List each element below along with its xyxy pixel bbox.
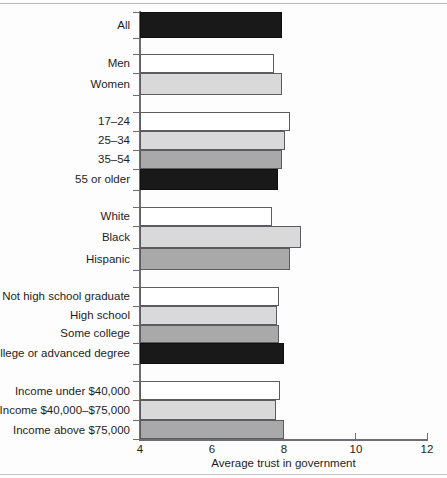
x-tick-10: [355, 433, 356, 440]
x-tick-label-8: 8: [264, 443, 304, 455]
cat-label-income-under-40k: Income under $40,000: [15, 385, 130, 397]
x-tick-label-6: 6: [192, 443, 232, 455]
bar-edu-not-hs: [140, 287, 279, 306]
x-tick-label-10: 10: [336, 443, 376, 455]
y-tick-8: [133, 169, 140, 170]
cat-label-hispanic: Hispanic: [86, 253, 130, 265]
bar-edu-college: [140, 343, 284, 364]
y-tick-19: [133, 381, 140, 382]
x-axis-title: Average trust in government: [139, 457, 428, 469]
cat-label-age-17-24: 17–24: [98, 115, 130, 127]
y-tick-11: [133, 226, 140, 227]
bar-all: [140, 12, 282, 38]
cat-label-age-55-older: 55 or older: [75, 173, 130, 185]
bar-edu-hs: [140, 306, 277, 325]
y-tick-4: [133, 95, 140, 96]
cat-label-edu-hs: High school: [70, 309, 130, 321]
cat-label-income-40-75k: Income $40,000–$75,000: [0, 404, 130, 416]
cat-label-income-above-75k: Income above $75,000: [13, 424, 130, 436]
y-tick-15: [133, 306, 140, 307]
y-tick-6: [133, 131, 140, 132]
y-tick-22: [133, 439, 140, 440]
bar-chart-figure: 4 6 8 10 12: [0, 0, 447, 478]
bar-age-25-34: [140, 131, 285, 150]
x-tick-label-12: 12: [407, 443, 447, 455]
bar-white: [140, 207, 272, 226]
y-tick-3: [133, 73, 140, 74]
bar-men: [140, 54, 274, 73]
bar-hispanic: [140, 248, 290, 270]
bar-income-under-40k: [140, 381, 280, 400]
y-tick-20: [133, 400, 140, 401]
y-tick-16: [133, 325, 140, 326]
cat-label-all: All: [117, 19, 130, 31]
plot-area: 4 6 8 10 12: [0, 0, 447, 478]
y-tick-18: [133, 364, 140, 365]
y-tick-12: [133, 248, 140, 249]
cat-label-age-25-34: 25–34: [98, 134, 130, 146]
y-tick-1: [133, 38, 140, 39]
x-tick-12: [427, 433, 428, 440]
cat-label-women: Women: [91, 78, 130, 90]
bar-age-17-24: [140, 112, 290, 131]
cat-label-men: Men: [108, 57, 130, 69]
bar-black: [140, 226, 301, 248]
y-tick-10: [133, 207, 140, 208]
y-tick-21: [133, 420, 140, 421]
cat-label-white: White: [101, 210, 130, 222]
bar-edu-some-college: [140, 325, 279, 343]
bar-age-55-older: [140, 169, 278, 190]
cat-label-age-35-54: 35–54: [98, 153, 130, 165]
bar-age-35-54: [140, 150, 282, 169]
cat-label-black: Black: [102, 231, 130, 243]
y-tick-13: [133, 270, 140, 271]
bar-income-above-75k: [140, 420, 284, 439]
cat-label-edu-some-college: Some college: [60, 327, 130, 339]
cat-label-edu-college: College or advanced degree: [0, 347, 130, 359]
y-tick-0: [133, 12, 140, 13]
y-tick-14: [133, 287, 140, 288]
y-tick-5: [133, 112, 140, 113]
y-tick-9: [133, 190, 140, 191]
y-tick-17: [133, 343, 140, 344]
bar-women: [140, 73, 282, 95]
y-tick-2: [133, 54, 140, 55]
y-tick-7: [133, 150, 140, 151]
cat-label-edu-not-hs: Not high school graduate: [2, 290, 130, 302]
x-tick-label-4: 4: [120, 443, 160, 455]
bar-income-40-75k: [140, 400, 276, 420]
